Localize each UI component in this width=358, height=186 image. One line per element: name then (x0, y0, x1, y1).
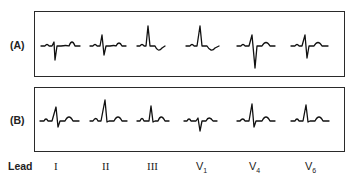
trace-b-lead-i (40, 107, 79, 127)
lead-label-v4-sub: 4 (256, 167, 260, 174)
trace-a-lead-v1 (186, 26, 219, 50)
lead-label-v1-sub: 1 (203, 167, 207, 174)
lead-label-v4: V4 (249, 160, 260, 174)
trace-b-lead-iii (137, 106, 169, 122)
ecg-traces (0, 0, 358, 186)
trace-b-lead-v6 (291, 105, 329, 122)
lead-label-iii: III (147, 160, 158, 172)
trace-b-lead-v4 (237, 104, 275, 127)
trace-a-lead-v4 (237, 35, 275, 68)
lead-label-v1: V1 (196, 160, 207, 174)
trace-b-lead-ii (90, 100, 127, 122)
trace-b-lead-v1 (184, 118, 217, 131)
lead-label-i: I (54, 160, 58, 172)
lead-label-ii: II (102, 160, 109, 172)
lead-axis-title: Lead (8, 160, 33, 172)
trace-a-lead-ii (90, 35, 126, 55)
trace-a-lead-iii (137, 26, 165, 50)
lead-label-v6-sub: 6 (312, 167, 316, 174)
lead-label-v6: V6 (305, 160, 316, 174)
trace-a-lead-i (41, 42, 80, 60)
trace-a-lead-v6 (291, 35, 328, 58)
